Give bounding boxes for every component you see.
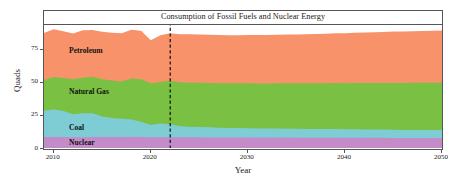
y-tick-label: 50 xyxy=(18,78,38,85)
area-series-nuclear xyxy=(44,137,442,148)
x-tick-label: 2040 xyxy=(324,154,364,161)
x-axis-title: Year xyxy=(43,166,443,175)
plot-panel: Petroleum Natural Gas Coal Nuclear xyxy=(43,25,443,150)
x-tick-label: 2020 xyxy=(130,154,170,161)
x-tick-mark xyxy=(441,150,442,153)
x-tick-label: 2030 xyxy=(227,154,267,161)
area-layers xyxy=(44,29,442,148)
y-tick-label: 0 xyxy=(18,145,38,152)
stacked-area-plot xyxy=(44,25,442,148)
x-tick-label: 2010 xyxy=(33,154,73,161)
x-tick-mark xyxy=(344,150,345,153)
y-tick-label: 25 xyxy=(18,111,38,118)
chart-title-strip: Consumption of Fossil Fuels and Nuclear … xyxy=(43,10,443,25)
x-tick-mark xyxy=(150,150,151,153)
x-tick-mark xyxy=(53,150,54,153)
y-tick-label: 75 xyxy=(18,45,38,52)
x-tick-label: 2050 xyxy=(421,154,461,161)
chart-title: Consumption of Fossil Fuels and Nuclear … xyxy=(161,13,325,21)
x-tick-mark xyxy=(247,150,248,153)
chart-figure: Consumption of Fossil Fuels and Nuclear … xyxy=(0,0,461,182)
